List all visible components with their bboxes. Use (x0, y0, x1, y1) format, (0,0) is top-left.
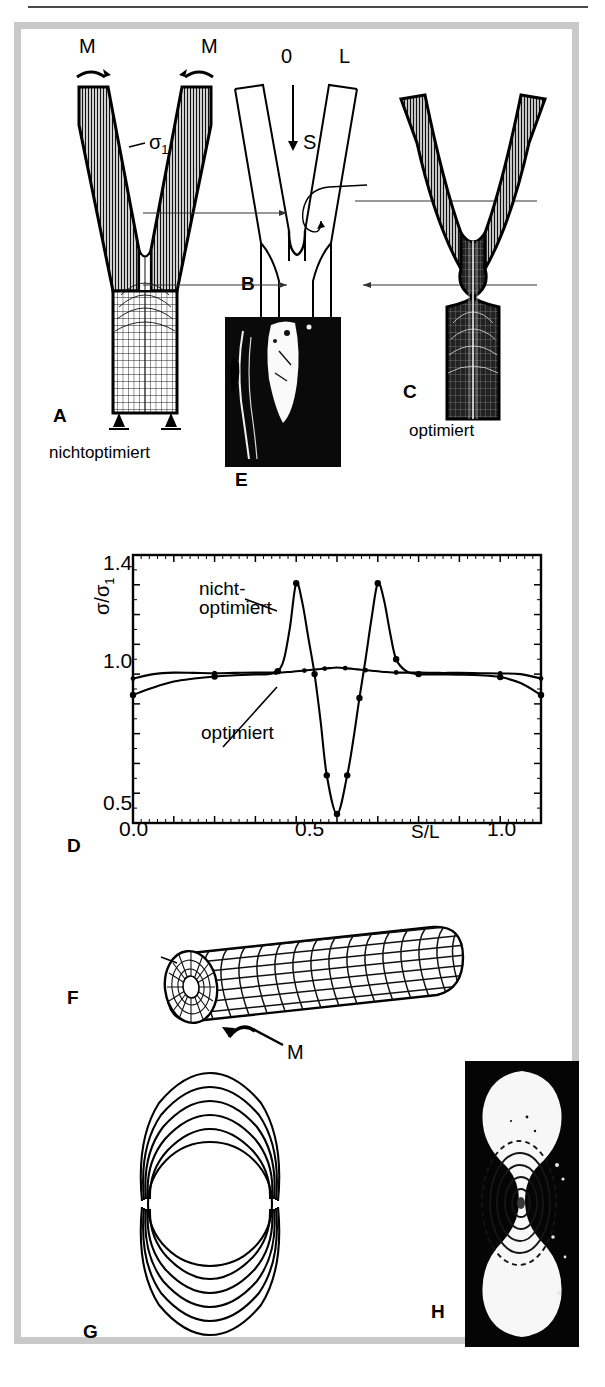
figure-frame: M M σ1 A nichtoptimiert 0 L S B (14, 22, 579, 1344)
moment-label-left: M (79, 35, 96, 58)
chart-plot-area (127, 549, 567, 849)
panel-e-photo (225, 317, 341, 467)
path-coordinate-label: S (303, 131, 316, 154)
panel-letter-g: G (83, 1321, 98, 1343)
panel-c-caption: optimiert (409, 421, 474, 441)
axis-ticks (133, 555, 541, 823)
panel-letter-c: C (403, 381, 417, 403)
panel-g (75, 1059, 345, 1349)
panel-letter-e: E (235, 469, 248, 491)
plot-frame (133, 555, 541, 823)
panel-c: C optimiert (385, 73, 561, 453)
length-label: L (339, 45, 350, 68)
panel-h-photoelastic (465, 1061, 579, 1347)
series-nichtoptimiert (133, 583, 541, 814)
panel-f: M (81, 891, 521, 1071)
panel-d-chart: σ/σ1 1.4 1.0 0.5 0.0 0.5 1.0 S/L nicht- … (67, 529, 567, 859)
panel-letter-a: A (53, 405, 67, 427)
moment-label-right: M (201, 35, 218, 58)
chart-y-axis-label: σ/σ1 (91, 578, 117, 615)
sigma1-label: σ1 (149, 131, 169, 157)
panel-a-caption: nichtoptimiert (49, 443, 150, 463)
markers-nichtoptimiert (130, 580, 544, 817)
leader-nichtoptimiert (245, 599, 277, 611)
origin-label: 0 (281, 45, 292, 68)
series-optimiert (133, 668, 541, 679)
panel-letter-d: D (67, 835, 81, 857)
leader-optimiert (223, 687, 277, 747)
panel-g-contours (75, 1059, 345, 1349)
panel-letter-f: F (67, 987, 79, 1009)
panel-letter-h: H (431, 1301, 445, 1323)
top-rule (28, 6, 588, 8)
